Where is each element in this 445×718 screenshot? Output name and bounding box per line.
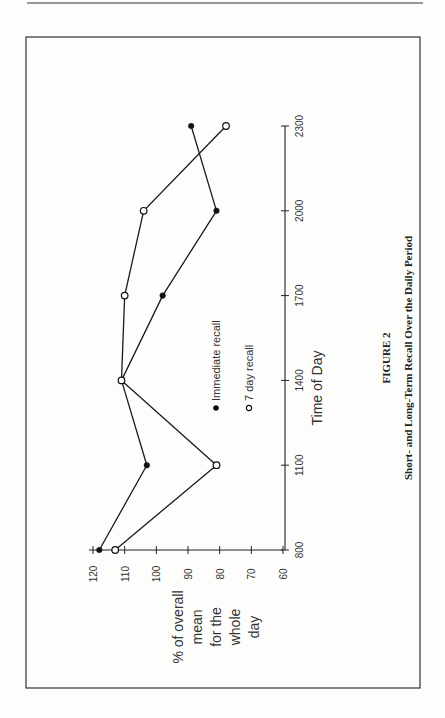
series-line	[99, 126, 216, 550]
x-tick-label: 800	[294, 541, 305, 558]
open-circle-icon	[246, 405, 251, 410]
x-tick-label: 1100	[294, 454, 305, 476]
y-tick-label: 90	[183, 568, 194, 580]
figure-page: 1201101009080706080011001400170020002300…	[0, 0, 445, 718]
legend-7-day-recall: 7 day recall	[243, 345, 255, 401]
y-tick-label: 80	[215, 568, 226, 580]
y-axis-title-line: whole	[227, 609, 243, 647]
x-tick-label: 1400	[294, 369, 305, 392]
y-axis-title: % of overallmeanfor thewholeday	[170, 590, 262, 663]
seven-day-recall-point	[213, 462, 220, 469]
immediate-recall-point	[160, 293, 166, 299]
y-tick-label: 120	[88, 565, 99, 582]
filled-dot-icon	[213, 405, 219, 411]
y-tick-label: 110	[120, 566, 131, 582]
seven-day-recall-point	[121, 292, 128, 299]
seven-day-recall-point	[112, 547, 119, 554]
immediate-recall-point	[188, 123, 194, 129]
seven-day-recall-point	[140, 208, 147, 215]
y-tick-label: 70	[246, 568, 257, 580]
y-axis-title-line: % of overall	[170, 590, 186, 663]
y-axis-title-line: day	[246, 616, 262, 639]
legend: Immediate recall 7 day recall	[210, 320, 255, 411]
x-tick-label: 2300	[294, 114, 305, 137]
y-axis-title-line: for the	[208, 607, 224, 647]
figure-caption: Short- and Long-Term Recall Over the Dai…	[402, 236, 414, 480]
legend-immediate-recall: Immediate recall	[210, 320, 222, 401]
x-axis-title: Time of Day	[309, 351, 325, 426]
figure-label: FIGURE 2	[380, 332, 392, 384]
x-tick-label: 1700	[294, 284, 305, 307]
seven-day-recall-point	[118, 377, 125, 384]
x-tick-label: 2000	[294, 199, 305, 222]
y-axis-title-line: mean	[189, 609, 205, 644]
immediate-recall-point	[214, 208, 220, 214]
y-tick-label: 100	[151, 565, 162, 582]
immediate-recall-point	[144, 462, 150, 468]
y-tick-label: 60	[278, 568, 289, 580]
immediate-recall-point	[97, 547, 103, 553]
figure-frame	[26, 37, 420, 688]
seven-day-recall-point	[223, 123, 230, 130]
